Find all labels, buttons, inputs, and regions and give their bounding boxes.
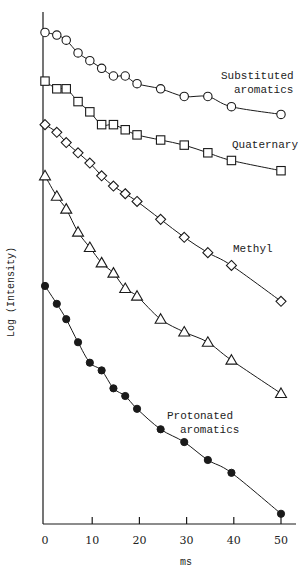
open-circle-marker xyxy=(121,72,129,80)
open-square-marker xyxy=(109,120,117,128)
open-diamond-marker xyxy=(120,189,130,199)
y-axis-title: Log (Intensity) xyxy=(6,247,17,337)
series-labels: SubstitutedaromaticsQuaternaryMethylProt… xyxy=(167,70,298,436)
open-diamond-marker xyxy=(156,214,166,224)
filled-circle-marker xyxy=(277,510,284,517)
open-diamond-marker xyxy=(203,248,213,258)
open-square-marker xyxy=(277,167,285,175)
series-label-1: Quaternary xyxy=(232,139,298,151)
open-triangle-marker xyxy=(155,314,166,324)
filled-circle-marker xyxy=(122,392,129,399)
filled-circle-marker xyxy=(41,282,48,289)
open-circle-marker xyxy=(156,85,164,93)
series-label-0: aromatics xyxy=(234,84,293,96)
open-circle-marker xyxy=(204,92,212,100)
open-triangle-marker xyxy=(226,355,237,365)
series-label-2: Methyl xyxy=(233,243,273,255)
chart-canvas: 01020304050 SubstitutedaromaticsQuaterna… xyxy=(0,0,307,574)
series-label-4: aromatics xyxy=(180,424,239,436)
filled-circle-marker xyxy=(98,367,105,374)
open-triangle-marker xyxy=(40,170,51,180)
series-label-4: Protonated xyxy=(167,410,233,422)
open-square-marker xyxy=(227,156,235,164)
filled-circle-marker xyxy=(86,359,93,366)
series-label-0: Substituted xyxy=(221,70,294,82)
filled-circle-marker xyxy=(157,426,164,433)
open-diamond-marker xyxy=(179,232,189,242)
open-square-marker xyxy=(86,108,94,116)
open-circle-marker xyxy=(180,92,188,100)
x-tick-label: 20 xyxy=(132,534,146,547)
open-circle-marker xyxy=(109,72,117,80)
open-triangle-marker xyxy=(73,227,84,237)
open-triangle-marker xyxy=(202,337,213,347)
filled-circle-marker xyxy=(53,300,60,307)
open-diamond-marker xyxy=(132,196,142,206)
open-square-marker xyxy=(53,85,61,93)
open-square-marker xyxy=(133,131,141,139)
open-square-marker xyxy=(62,85,70,93)
open-diamond-marker xyxy=(226,260,236,270)
x-tick-label: 30 xyxy=(180,534,194,547)
filled-circle-marker xyxy=(110,385,117,392)
open-triangle-marker xyxy=(51,191,62,201)
open-circle-marker xyxy=(227,103,235,111)
series-3-markers xyxy=(40,170,287,397)
x-axis-title: ms xyxy=(180,557,192,568)
open-triangle-marker xyxy=(132,291,143,301)
filled-circle-marker xyxy=(133,405,140,412)
filled-circle-marker xyxy=(181,438,188,445)
open-circle-marker xyxy=(133,79,141,87)
x-tick-label: 50 xyxy=(274,534,288,547)
open-circle-marker xyxy=(86,56,94,64)
x-tick-label: 0 xyxy=(42,534,49,547)
open-circle-marker xyxy=(53,31,61,39)
open-triangle-marker xyxy=(61,204,72,214)
open-circle-marker xyxy=(41,28,49,36)
filled-circle-marker xyxy=(228,469,235,476)
open-square-marker xyxy=(204,149,212,157)
filled-circle-marker xyxy=(74,339,81,346)
open-circle-marker xyxy=(277,110,285,118)
open-square-marker xyxy=(180,141,188,149)
open-square-marker xyxy=(121,126,129,134)
open-diamond-marker xyxy=(108,181,118,191)
data-markers xyxy=(40,28,287,517)
log-intensity-decay-chart: 01020304050 SubstitutedaromaticsQuaterna… xyxy=(0,0,307,574)
open-square-marker xyxy=(97,120,105,128)
open-triangle-marker xyxy=(276,388,287,398)
open-square-marker xyxy=(156,136,164,144)
open-triangle-marker xyxy=(179,327,190,337)
fit-line-3 xyxy=(45,176,281,394)
open-diamond-marker xyxy=(276,296,286,306)
open-square-marker xyxy=(41,77,49,85)
open-diamond-marker xyxy=(40,120,50,130)
open-circle-marker xyxy=(62,36,70,44)
filled-circle-marker xyxy=(63,316,70,323)
open-circle-marker xyxy=(97,64,105,72)
open-circle-marker xyxy=(74,49,82,57)
x-tick-label: 10 xyxy=(85,534,99,547)
filled-circle-marker xyxy=(204,456,211,463)
x-tick-label: 40 xyxy=(227,534,241,547)
open-square-marker xyxy=(74,97,82,105)
